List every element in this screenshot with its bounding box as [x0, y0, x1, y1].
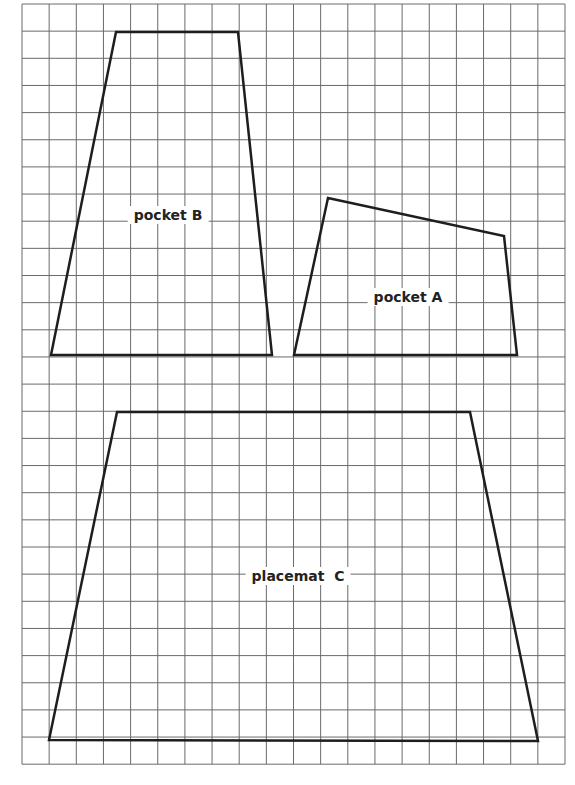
graph-paper-grid [22, 4, 565, 764]
placemat-c-label: placemat C [246, 567, 351, 585]
pocket-a-label: pocket A [368, 288, 449, 306]
grid-diagram [0, 0, 575, 785]
pocket-b-label: pocket B [128, 206, 209, 224]
